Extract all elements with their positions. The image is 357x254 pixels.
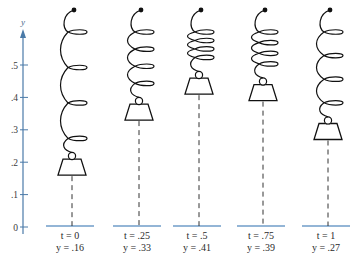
spring-coil-icon [317, 10, 344, 117]
spring-diagram: y0.1.2.3.4.5 t = 0y = .16t = .25y = .33t… [0, 0, 357, 254]
hook-ring-icon [324, 117, 331, 124]
mass-weight-icon [185, 78, 213, 94]
y-tick-label: .1 [11, 190, 18, 200]
spring-t-0: t = 0y = .16 [46, 8, 94, 253]
diagram-canvas: y0.1.2.3.4.5 t = 0y = .16t = .25y = .33t… [0, 0, 357, 254]
spring-coil-icon [188, 10, 215, 71]
spring-coil-icon [61, 10, 88, 152]
hook-ring-icon [259, 78, 266, 85]
axis-arrow-icon [20, 29, 26, 38]
position-label: y = .33 [123, 242, 151, 253]
anchor-point-icon [263, 8, 268, 13]
anchor-point-icon [328, 8, 333, 13]
hook-ring-icon [195, 71, 202, 78]
position-label: y = .27 [312, 242, 340, 253]
y-tick-label: .3 [11, 125, 18, 135]
position-label: y = .39 [247, 242, 275, 253]
hook-ring-icon [135, 97, 142, 104]
mass-weight-icon [125, 104, 153, 120]
position-label: y = .16 [56, 242, 84, 253]
time-label: t = 0 [61, 230, 79, 241]
y-tick-label: .5 [11, 61, 18, 71]
hook-ring-icon [68, 152, 75, 159]
spring-t-25: t = .25y = .33 [113, 8, 161, 253]
y-axis-label: y [20, 17, 25, 27]
y-axis: y0.1.2.3.4.5 [11, 17, 28, 234]
spring-coil-icon [252, 10, 279, 78]
spring-t-5: t = .5y = .41 [173, 8, 221, 253]
anchor-point-icon [139, 8, 144, 13]
time-label: t = .5 [187, 230, 208, 241]
y-tick-label: .4 [11, 93, 18, 103]
anchor-point-icon [199, 8, 204, 13]
spring-t-75: t = .75y = .39 [237, 8, 285, 253]
y-tick-label: 0 [13, 223, 18, 233]
spring-t-1: t = 1y = .27 [302, 8, 350, 253]
mass-weight-icon [58, 159, 86, 175]
mass-weight-icon [314, 124, 342, 140]
mass-weight-icon [249, 85, 277, 101]
time-label: t = .25 [124, 230, 150, 241]
y-tick-label: .2 [11, 158, 18, 168]
spring-coil-icon [128, 10, 155, 97]
springs: t = 0y = .16t = .25y = .33t = .5y = .41t… [46, 8, 350, 253]
position-label: y = .41 [183, 242, 211, 253]
time-label: t = 1 [317, 230, 335, 241]
time-label: t = .75 [248, 230, 274, 241]
anchor-point-icon [72, 8, 77, 13]
